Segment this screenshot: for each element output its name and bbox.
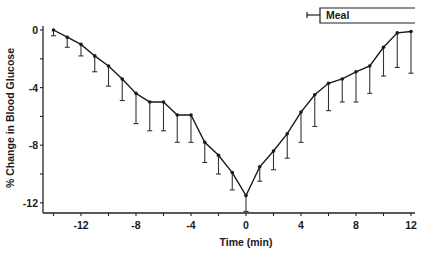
data-point xyxy=(230,171,234,175)
data-point xyxy=(340,77,344,81)
data-point xyxy=(409,30,413,34)
data-point xyxy=(203,141,207,145)
error-bars xyxy=(51,30,414,211)
data-point xyxy=(327,81,331,85)
y-axis-title: % Change in Blood Glucose xyxy=(4,48,16,188)
data-point xyxy=(107,64,111,68)
axes: 0-4-8-12-12-8-404812 xyxy=(23,24,417,231)
x-axis-title: Time (min) xyxy=(220,236,273,248)
x-tick-label: -4 xyxy=(186,219,195,231)
blood-glucose-chart: 0-4-8-12-12-8-404812 Meal Time (min) % C… xyxy=(0,0,435,256)
data-point xyxy=(258,165,262,169)
data-point xyxy=(134,92,138,96)
data-point xyxy=(93,54,97,58)
data-point xyxy=(354,70,358,74)
data-point xyxy=(272,149,276,153)
data-point xyxy=(79,43,83,47)
data-point xyxy=(120,77,124,81)
x-tick-label: -12 xyxy=(73,219,88,231)
data-point xyxy=(189,113,193,117)
data-point xyxy=(65,35,69,39)
x-tick-label: 0 xyxy=(243,219,249,231)
data-point xyxy=(395,31,399,35)
data-point xyxy=(162,100,166,104)
y-tick-label: -12 xyxy=(23,197,38,209)
y-tick-label: -4 xyxy=(29,82,38,94)
data-point xyxy=(299,110,303,114)
data-point xyxy=(148,100,152,104)
meal-annotation: Meal xyxy=(307,8,415,23)
x-tick-label: 4 xyxy=(298,219,304,231)
data-series xyxy=(52,28,413,197)
y-tick-label: 0 xyxy=(32,24,38,36)
data-point xyxy=(244,194,248,198)
data-point xyxy=(175,113,179,117)
meal-label: Meal xyxy=(326,9,349,21)
data-point xyxy=(313,93,317,97)
chart-canvas: 0-4-8-12-12-8-404812 Meal Time (min) % C… xyxy=(0,0,435,256)
x-tick-label: 8 xyxy=(353,219,359,231)
data-point xyxy=(285,132,289,136)
data-point xyxy=(52,28,56,32)
x-tick-label: -8 xyxy=(131,219,140,231)
y-tick-label: -8 xyxy=(29,139,38,151)
x-tick-label: 12 xyxy=(405,219,417,231)
data-point xyxy=(217,153,221,157)
data-point xyxy=(368,64,372,68)
data-point xyxy=(382,45,386,49)
